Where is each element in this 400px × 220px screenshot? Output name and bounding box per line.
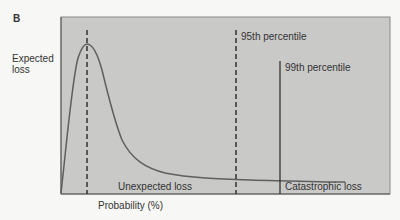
p99-label: 99th percentile (285, 62, 351, 73)
chart-canvas: 95th percentile 99th percentile Unexpect… (0, 0, 400, 220)
p95-label: 95th percentile (241, 31, 307, 42)
unexpected-loss-label: Unexpected loss (118, 181, 192, 192)
x-axis-label: Probability (%) (98, 200, 163, 211)
catastrophic-loss-label: Catastrophic loss (285, 181, 362, 192)
